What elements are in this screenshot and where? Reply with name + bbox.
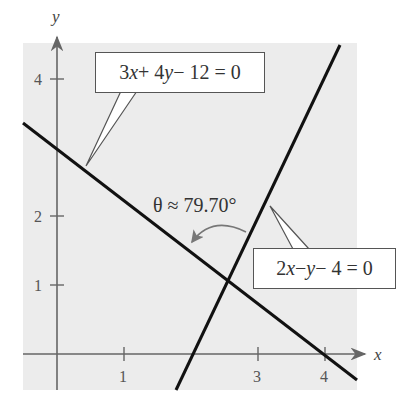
eq1-rest: − 12 = 0 — [173, 61, 241, 84]
eq1-var-y: y — [164, 61, 173, 84]
eq2-var-x: x — [286, 257, 295, 280]
eq2-var-y: y — [306, 257, 315, 280]
x-axis-label: x — [373, 345, 382, 364]
eq1-var-x: x — [129, 61, 138, 84]
y-tick-label-2: 2 — [34, 208, 42, 225]
x-tick-label-4: 4 — [320, 368, 328, 385]
equation-label-line-1: 3x + 4y − 12 = 0 — [95, 52, 265, 93]
angle-label: θ ≈ 79.70° — [153, 194, 237, 217]
eq2-rest: − 4 = 0 — [315, 257, 373, 280]
x-tick-label-3: 3 — [253, 368, 261, 385]
eq2-coef-x: 2 — [276, 257, 286, 280]
equation-label-line-2: 2x − y − 4 = 0 — [253, 248, 396, 289]
eq1-coef-y: + 4 — [138, 61, 164, 84]
y-tick-label-4: 4 — [34, 71, 42, 88]
eq1-coef-x: 3 — [119, 61, 129, 84]
eq2-minus: − — [295, 257, 306, 280]
x-tick-label-1: 1 — [119, 368, 127, 385]
y-axis-label: y — [50, 7, 60, 26]
y-tick-label-1: 1 — [34, 277, 42, 294]
